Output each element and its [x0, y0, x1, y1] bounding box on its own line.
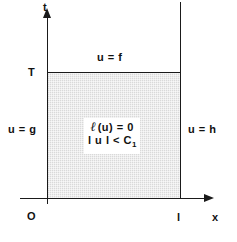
t-axis-tick-label-T: T	[28, 67, 35, 78]
script-operator-symbol: ℓ	[91, 119, 98, 134]
t-axis-line	[47, 14, 48, 204]
origin-label: O	[27, 211, 36, 222]
right-boundary-line	[180, 2, 181, 198]
top-boundary-line	[47, 72, 181, 73]
left-boundary-condition-label: u = g	[8, 124, 36, 135]
math-diagram-figure: t x O T l u = f u = g u = h ℓ(u) = 0 l u…	[0, 0, 237, 242]
bound-inequality-line: l u l < C1	[88, 134, 136, 151]
x-axis-tick-label-l: l	[177, 212, 181, 223]
x-axis-arrowhead-icon	[204, 194, 214, 202]
pde-equation-text: (u) = 0	[98, 121, 134, 133]
interior-equation-box: ℓ(u) = 0 l u l < C1	[84, 118, 140, 154]
right-boundary-condition-label: u = h	[188, 124, 216, 135]
pde-equation-line: ℓ(u) = 0	[88, 120, 136, 134]
bound-constant-subscript: 1	[132, 140, 136, 149]
x-axis-label: x	[212, 212, 219, 223]
bound-inequality-text: l u l < C	[88, 134, 132, 146]
t-axis-label: t	[43, 2, 47, 13]
top-boundary-condition-label: u = f	[97, 52, 122, 63]
x-axis-line	[20, 198, 210, 199]
